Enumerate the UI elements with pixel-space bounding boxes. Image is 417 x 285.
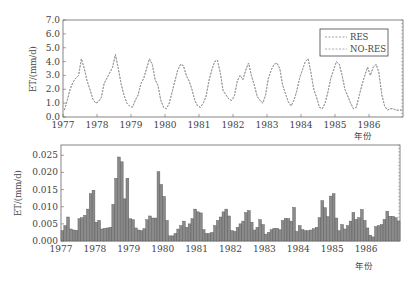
x-tick-label: 1981 (185, 244, 208, 254)
bar (75, 230, 78, 241)
y-tick-label: 5.0 (46, 43, 61, 53)
bar (242, 221, 245, 241)
x-tick-label: 1985 (321, 244, 344, 254)
bar (290, 221, 293, 241)
bar (72, 230, 75, 241)
bar (233, 231, 236, 241)
bar (69, 229, 72, 241)
bar (118, 157, 121, 241)
bar (101, 229, 104, 241)
x-tick-label: 1985 (324, 120, 347, 130)
bottom-x-axis: 1977197819791980198119821983198419851986 (50, 244, 378, 254)
bar (174, 233, 177, 241)
legend-nores-label: NO-RES (350, 44, 386, 54)
bar (205, 233, 208, 241)
bar (92, 190, 95, 241)
bar (185, 227, 188, 241)
bar (332, 194, 335, 241)
x-tick-label: 1982 (219, 244, 242, 254)
bar (143, 229, 146, 241)
bar (140, 231, 143, 241)
bar (267, 232, 270, 241)
bar (264, 234, 267, 241)
x-tick-label: 1979 (120, 120, 143, 130)
bar (199, 213, 202, 241)
x-tick-label: 1984 (290, 120, 313, 130)
bar (239, 224, 242, 241)
bar (281, 220, 284, 241)
bar (177, 229, 180, 241)
bar (392, 216, 395, 241)
x-tick-label: 1980 (151, 244, 174, 254)
bottom-y-axis-label: ET/(mm/d) (13, 170, 23, 216)
bar (358, 218, 361, 241)
x-tick-label: 1981 (188, 120, 211, 130)
x-tick-label: 1978 (86, 120, 109, 130)
top-x-axis-label: 年份 (354, 131, 372, 141)
bar (216, 220, 219, 241)
bar (95, 222, 98, 241)
y-tick-label: 3.0 (46, 70, 61, 80)
top-line-chart: 0.01.02.03.04.05.06.07.0 197719781979198… (28, 15, 403, 141)
top-series-lines (64, 55, 401, 111)
bar (149, 216, 152, 241)
bar (86, 209, 89, 241)
bar (363, 220, 366, 241)
bar (352, 213, 355, 241)
bar (276, 228, 279, 241)
bar (180, 226, 183, 241)
bar (284, 218, 287, 241)
bar (324, 208, 327, 241)
series-line-res (64, 55, 401, 111)
bar (321, 201, 324, 241)
bar (67, 217, 70, 241)
bar (106, 228, 109, 241)
bar (360, 209, 363, 241)
x-tick-label: 1983 (256, 120, 279, 130)
bar (245, 213, 248, 241)
bar (298, 226, 301, 241)
bar (247, 210, 250, 241)
x-tick-label: 1980 (154, 120, 177, 130)
bar (310, 230, 313, 241)
bar (132, 220, 135, 241)
y-tick-label: 2.0 (46, 84, 61, 94)
figure: 0.01.02.03.04.05.06.07.0 197719781979198… (0, 0, 417, 285)
bar (112, 204, 115, 241)
y-tick-label: 6.0 (46, 29, 61, 39)
bar (64, 226, 67, 241)
bar (219, 217, 222, 241)
bottom-bars (61, 157, 400, 241)
y-tick-label: 0.010 (32, 202, 58, 212)
bar (208, 233, 211, 241)
bar (109, 227, 112, 241)
x-tick-label: 1978 (83, 244, 106, 254)
bar (253, 230, 256, 241)
bar (372, 237, 375, 241)
bar (279, 230, 282, 241)
bar (157, 172, 160, 241)
y-tick-label: 1.0 (46, 98, 61, 108)
bar (61, 231, 64, 241)
bar (84, 215, 87, 241)
legend-res-label: RES (350, 32, 369, 42)
bar (134, 228, 137, 241)
bar (377, 226, 380, 241)
bar (191, 219, 194, 241)
x-tick-label: 1986 (358, 120, 381, 130)
bar (182, 221, 185, 241)
bar (151, 218, 154, 241)
bar (188, 224, 191, 241)
bar (315, 227, 318, 241)
bar (259, 220, 262, 241)
bar (194, 209, 197, 241)
bar (295, 231, 298, 241)
x-tick-label: 1979 (117, 244, 140, 254)
bar (222, 212, 225, 241)
y-tick-label: 4.0 (46, 57, 61, 67)
bar (146, 220, 149, 241)
bar (312, 229, 315, 241)
series-line-no-res (64, 55, 401, 111)
bar (81, 218, 84, 241)
bar (98, 220, 101, 241)
